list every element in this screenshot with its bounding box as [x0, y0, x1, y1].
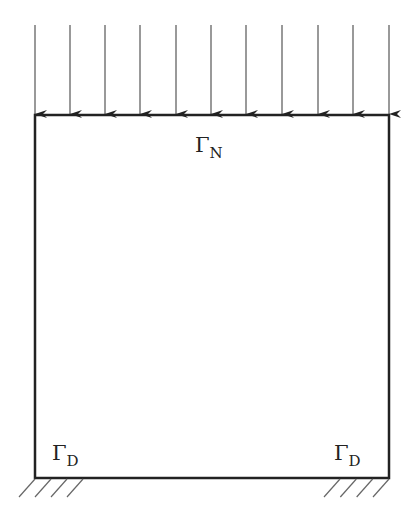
support-hatch-line — [35, 479, 51, 497]
neumann-boundary-label: ΓN — [195, 135, 223, 161]
support-hatch-line — [19, 479, 35, 497]
gamma-symbol: Γ — [334, 441, 349, 465]
dirichlet-subscript: D — [67, 452, 79, 470]
fixed-support-right-hatch — [324, 479, 389, 497]
domain-rectangle — [35, 115, 389, 478]
support-hatch-line — [67, 479, 83, 497]
support-hatch-line — [51, 479, 67, 497]
neumann-subscript: N — [210, 144, 223, 162]
support-hatch-line — [324, 479, 340, 497]
dirichlet-boundary-label-left: ΓD — [52, 443, 79, 469]
distributed-load-arrows — [35, 25, 389, 114]
support-hatch-line — [357, 479, 373, 497]
dirichlet-boundary-label-right: ΓD — [334, 443, 361, 469]
gamma-symbol: Γ — [52, 441, 67, 465]
fixed-support-left-hatch — [19, 479, 83, 497]
gamma-symbol: Γ — [195, 133, 210, 157]
support-hatch-line — [373, 479, 389, 497]
dirichlet-subscript: D — [349, 452, 361, 470]
support-hatch-line — [340, 479, 356, 497]
